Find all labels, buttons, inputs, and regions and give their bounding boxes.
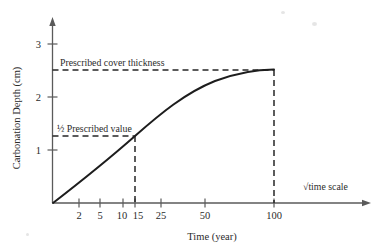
half-prescribed-value-label: ½ Prescribed value (57, 123, 132, 134)
sqrt-time-scale-note: √time scale (303, 181, 348, 192)
y-tick-label-1: 1 (36, 145, 41, 156)
scan-speck (312, 22, 317, 26)
x-axis-title: Time (year) (187, 231, 237, 243)
scan-speck (26, 233, 29, 236)
x-tick-label-2: 2 (76, 210, 81, 221)
carbonation-depth-chart: 1 2 3 2 5 10 15 25 50 100 Prescribed cov… (0, 0, 391, 250)
x-tick-label-5: 5 (97, 210, 102, 221)
x-tick-label-10: 10 (117, 210, 128, 221)
x-tick-label-15: 15 (133, 210, 144, 221)
y-axis-arrowhead (49, 17, 55, 26)
y-tick-label-2: 2 (36, 92, 41, 103)
y-tick-label-3: 3 (36, 39, 41, 50)
x-tick-label-50: 50 (200, 210, 211, 221)
y-axis-title: Carbonation Depth (cm) (11, 66, 23, 169)
x-tick-labels-group: 2 5 10 15 25 50 100 (76, 210, 282, 221)
x-tick-label-25: 25 (156, 210, 167, 221)
chart-canvas: 1 2 3 2 5 10 15 25 50 100 Prescribed cov… (0, 0, 391, 250)
x-axis-arrowhead (362, 200, 371, 206)
axes-group (49, 17, 371, 206)
scan-speck (281, 11, 285, 14)
prescribed-cover-thickness-label: Prescribed cover thickness (60, 57, 165, 68)
guide-lines-group (53, 70, 275, 203)
y-tick-labels-group: 1 2 3 (36, 39, 41, 156)
x-tick-label-100: 100 (266, 210, 282, 221)
